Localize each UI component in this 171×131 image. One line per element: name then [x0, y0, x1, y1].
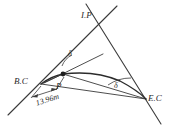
back-tangent-line	[8, 6, 117, 115]
label-curve-point-p: P	[56, 82, 62, 91]
label-intersection-point: I.P	[81, 11, 92, 20]
point-marker-p	[61, 72, 66, 77]
label-end-curve: E.C	[148, 94, 162, 103]
chord-p-to-ec-line	[63, 74, 146, 99]
label-delta-near-bc: δ	[68, 50, 72, 58]
label-begin-curve: B.C	[14, 77, 28, 86]
forward-tangent-line	[86, 4, 161, 124]
curve-diagram: I.P B.C E.C P δ δ 13.96m	[0, 0, 171, 131]
label-delta-near-ec: δ	[114, 82, 118, 90]
